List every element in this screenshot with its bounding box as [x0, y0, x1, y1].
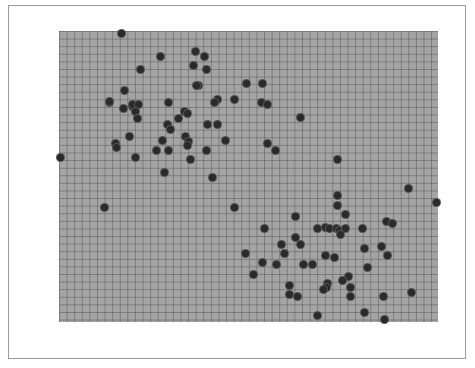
data-point — [359, 225, 366, 232]
data-point — [286, 291, 293, 298]
data-point — [106, 98, 113, 105]
data-point — [222, 137, 229, 144]
data-point — [389, 220, 396, 227]
data-point — [264, 101, 271, 108]
data-point — [209, 174, 216, 181]
data-point — [231, 96, 238, 103]
data-point — [242, 250, 249, 257]
data-point — [345, 273, 352, 280]
data-point — [184, 110, 191, 117]
data-point — [273, 261, 280, 268]
data-point — [297, 241, 304, 248]
data-point — [113, 144, 120, 151]
data-point — [334, 192, 341, 199]
data-point — [384, 252, 391, 259]
data-point — [165, 99, 172, 106]
data-point — [342, 211, 349, 218]
data-point — [378, 243, 385, 250]
data-point — [300, 261, 307, 268]
data-point — [120, 105, 127, 112]
data-point — [211, 99, 218, 106]
data-point — [259, 80, 266, 87]
scatter-points — [0, 0, 475, 368]
data-point — [261, 225, 268, 232]
data-point — [405, 185, 412, 192]
data-point — [132, 108, 139, 115]
data-point — [126, 133, 133, 140]
data-point — [294, 293, 301, 300]
data-point — [192, 48, 199, 55]
data-point — [132, 154, 139, 161]
data-point — [231, 204, 238, 211]
data-point — [165, 147, 172, 154]
data-point — [175, 115, 182, 122]
data-point — [347, 284, 354, 291]
data-point — [204, 121, 211, 128]
data-point — [272, 147, 279, 154]
data-point — [214, 121, 221, 128]
data-point — [167, 126, 174, 133]
data-point — [337, 231, 344, 238]
data-point — [134, 115, 141, 122]
data-point — [203, 147, 210, 154]
data-point — [159, 137, 166, 144]
data-point — [264, 140, 271, 147]
data-point — [187, 156, 194, 163]
data-point — [334, 202, 341, 209]
data-point — [364, 264, 371, 271]
data-point — [243, 80, 250, 87]
data-point — [361, 309, 368, 316]
data-point — [314, 225, 321, 232]
data-point — [433, 199, 440, 206]
data-point — [259, 259, 266, 266]
data-point — [334, 156, 341, 163]
data-point — [121, 87, 128, 94]
data-point — [342, 225, 349, 232]
data-point — [347, 293, 354, 300]
data-point — [201, 53, 208, 60]
data-point — [331, 254, 338, 261]
data-point — [101, 204, 108, 211]
data-point — [57, 154, 64, 161]
data-point — [157, 53, 164, 60]
data-point — [135, 101, 142, 108]
data-point — [381, 316, 388, 323]
data-point — [320, 286, 327, 293]
data-point — [250, 271, 257, 278]
data-point — [297, 114, 304, 121]
data-point — [286, 282, 293, 289]
data-point — [184, 142, 191, 149]
data-point — [118, 30, 125, 37]
data-point — [281, 250, 288, 257]
data-point — [339, 277, 346, 284]
data-point — [314, 312, 321, 319]
data-point — [380, 293, 387, 300]
data-point — [137, 66, 144, 73]
data-point — [161, 169, 168, 176]
data-point — [361, 245, 368, 252]
data-point — [292, 234, 299, 241]
data-point — [190, 62, 197, 69]
data-point — [153, 147, 160, 154]
data-point — [292, 213, 299, 220]
data-point — [203, 66, 210, 73]
data-point — [309, 261, 316, 268]
data-point — [278, 241, 285, 248]
data-point — [322, 252, 329, 259]
data-point — [408, 289, 415, 296]
